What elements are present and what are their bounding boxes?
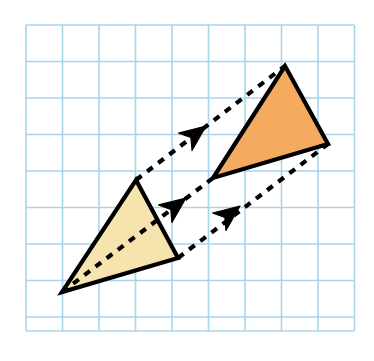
translation-arrow-right-head-icon xyxy=(213,197,247,230)
triangle-fills xyxy=(62,66,328,292)
translation-diagram xyxy=(0,0,374,361)
geometry-canvas xyxy=(0,0,374,361)
